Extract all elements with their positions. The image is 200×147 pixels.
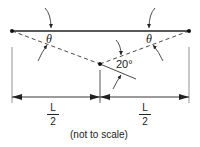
theta-right-arrow-top (149, 8, 155, 28)
theta-left-label: θ (46, 33, 52, 45)
theta-right-label: θ (146, 33, 152, 45)
angle-arrow-bottom (113, 75, 121, 89)
scale-note: (not to scale) (70, 130, 128, 140)
dashed-right (100, 31, 189, 64)
right-node (187, 29, 191, 33)
middle-node (98, 62, 102, 66)
angle-label: 20° (116, 59, 133, 70)
diagram: θ θ 20° L 2 L 2 (not to scale) (0, 0, 200, 147)
half-length-left: L 2 (47, 102, 59, 127)
theta-left-arrow-top (45, 8, 51, 28)
left-node (10, 29, 14, 33)
diagram-graphics (0, 0, 200, 147)
theta-right-arrow-bottom (153, 45, 163, 61)
dashed-left (12, 31, 100, 64)
theta-left-arrow-bottom (38, 45, 47, 61)
angle-arrow-top (116, 40, 121, 55)
half-length-right: L 2 (139, 102, 151, 127)
